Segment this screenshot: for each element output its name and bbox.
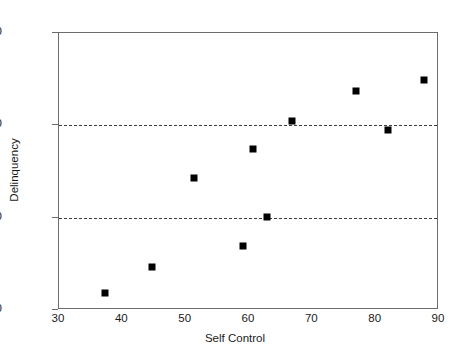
- y-axis-title: Delinquency: [8, 138, 20, 201]
- y-tick-label-0: 0: [0, 303, 2, 315]
- x-tick-label-30: 30: [38, 313, 78, 325]
- data-point: [264, 213, 271, 220]
- x-tick-label-70: 70: [291, 313, 331, 325]
- data-point: [239, 243, 246, 250]
- y-tick-mark-0: [52, 309, 58, 310]
- plot-area: [58, 32, 438, 309]
- reference-line-10: [59, 218, 437, 219]
- scatter-plot-figure: Delinquency Self Control 010203030405060…: [0, 0, 470, 361]
- data-point: [384, 126, 391, 133]
- x-tick-label-60: 60: [228, 313, 268, 325]
- x-tick-label-90: 90: [418, 313, 458, 325]
- y-tick-label-30: 30: [0, 26, 2, 38]
- data-point: [353, 88, 360, 95]
- data-point: [191, 174, 198, 181]
- data-point: [250, 146, 257, 153]
- y-tick-label-10: 10: [0, 211, 2, 223]
- data-point: [421, 77, 428, 84]
- y-tick-label-20: 20: [0, 119, 2, 131]
- y-tick-mark-30: [52, 32, 58, 33]
- y-tick-mark-20: [52, 124, 58, 125]
- x-tick-label-80: 80: [355, 313, 395, 325]
- data-point: [288, 117, 295, 124]
- reference-line-20: [59, 125, 437, 126]
- y-tick-mark-10: [52, 217, 58, 218]
- x-tick-label-40: 40: [101, 313, 141, 325]
- x-axis-title: Self Control: [0, 332, 470, 344]
- data-point: [101, 290, 108, 297]
- data-point: [149, 264, 156, 271]
- x-tick-label-50: 50: [165, 313, 205, 325]
